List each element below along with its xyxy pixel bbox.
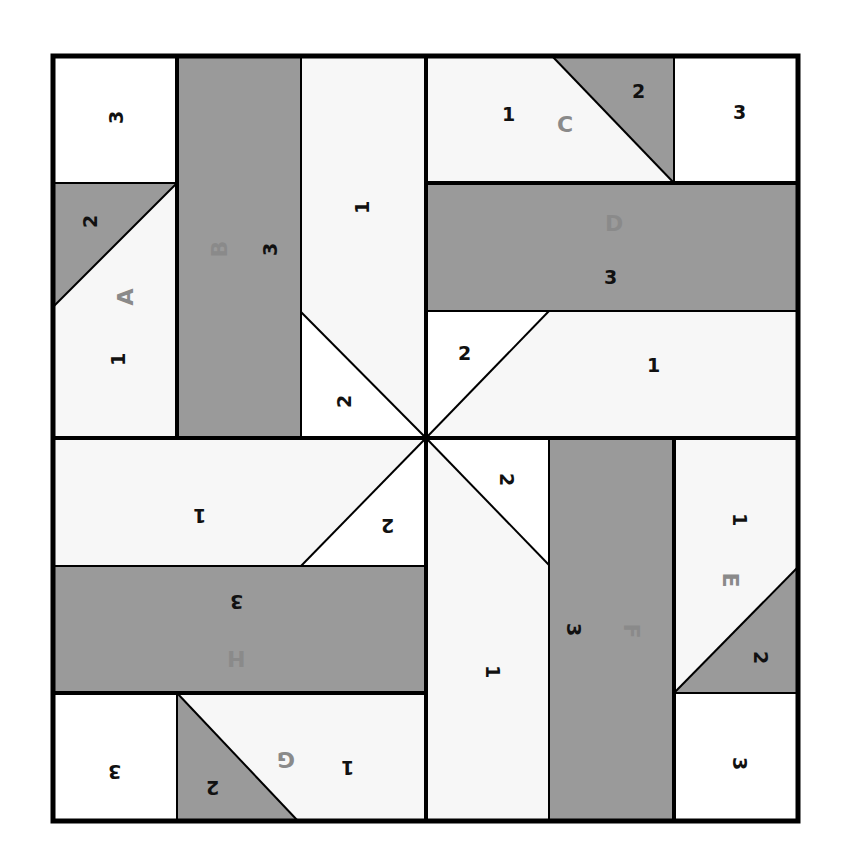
label-b3: 3 <box>261 243 280 256</box>
label-e2: 2 <box>751 651 770 664</box>
label-e1: 1 <box>730 513 749 526</box>
label-b2: 2 <box>335 395 354 408</box>
label-g-letter: G <box>277 748 295 770</box>
label-b-letter: B <box>209 241 231 258</box>
center-point <box>422 434 430 442</box>
label-g1: 1 <box>341 758 354 777</box>
label-f2: 2 <box>497 473 516 486</box>
label-d2: 2 <box>458 344 471 363</box>
piece-b3 <box>177 56 301 438</box>
label-h2: 2 <box>381 516 394 535</box>
label-f-letter: F <box>620 623 642 638</box>
label-a2: 2 <box>81 215 100 228</box>
piece-g3 <box>53 693 177 821</box>
label-e-letter: E <box>719 572 741 587</box>
piece-h3 <box>53 566 426 693</box>
label-e3: 3 <box>730 757 749 770</box>
label-g3: 3 <box>108 762 121 781</box>
label-g2: 2 <box>206 778 219 797</box>
label-h-letter: H <box>227 647 245 669</box>
label-f1: 1 <box>483 665 502 678</box>
label-h3: 3 <box>230 592 243 611</box>
label-a-letter: A <box>115 288 137 305</box>
label-c-letter: C <box>557 114 573 136</box>
piece-d3 <box>426 183 798 311</box>
label-c3: 3 <box>733 103 746 122</box>
label-a3: 3 <box>107 111 126 124</box>
label-f3: 3 <box>564 623 583 636</box>
label-a1: 1 <box>109 353 128 366</box>
label-b1: 1 <box>353 201 372 214</box>
label-c2: 2 <box>632 82 645 101</box>
quilt-block-diagram <box>0 0 841 868</box>
section-g <box>53 693 426 821</box>
label-d3: 3 <box>604 268 617 287</box>
label-c1: 1 <box>502 105 515 124</box>
label-d1: 1 <box>647 356 660 375</box>
label-h1: 1 <box>193 506 206 525</box>
label-d-letter: D <box>605 213 623 235</box>
